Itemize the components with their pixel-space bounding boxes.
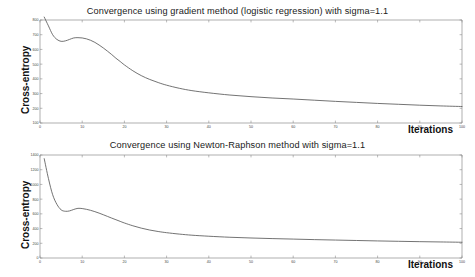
svg-text:200: 200 <box>32 107 38 111</box>
svg-text:40: 40 <box>207 125 211 129</box>
svg-text:800: 800 <box>32 18 38 22</box>
svg-text:300: 300 <box>32 92 38 96</box>
svg-text:500: 500 <box>32 63 38 67</box>
svg-text:20: 20 <box>122 125 126 129</box>
svg-text:50: 50 <box>249 125 253 129</box>
svg-text:10: 10 <box>80 260 84 264</box>
svg-text:50: 50 <box>249 260 253 264</box>
svg-text:0: 0 <box>39 260 41 264</box>
svg-text:80: 80 <box>376 260 380 264</box>
svg-text:80: 80 <box>376 125 380 129</box>
chart-panel-gradient: Convergence using gradient method (logis… <box>0 0 475 140</box>
svg-text:0: 0 <box>36 256 38 260</box>
svg-text:700: 700 <box>32 33 38 37</box>
data-curve-gradient <box>44 17 462 106</box>
svg-text:30: 30 <box>165 125 169 129</box>
svg-text:10: 10 <box>80 125 84 129</box>
x-axis-label-newton: Iterations <box>408 259 453 270</box>
x-axis-label-gradient: Iterations <box>408 124 453 135</box>
y-axis-label-newton: Cross-entropy <box>20 181 31 249</box>
svg-text:100: 100 <box>459 125 465 129</box>
svg-text:100: 100 <box>32 121 38 125</box>
svg-text:800: 800 <box>32 198 38 202</box>
svg-text:1400: 1400 <box>30 153 38 157</box>
plot-area-newton: 0102030405060708090100020040060080010001… <box>0 137 475 277</box>
svg-text:1200: 1200 <box>30 168 38 172</box>
svg-text:600: 600 <box>32 48 38 52</box>
plot-area-gradient: 0102030405060708090100100200300400500600… <box>0 0 475 140</box>
chart-panel-newton: Convergence using Newton-Raphson method … <box>0 137 475 277</box>
svg-text:60: 60 <box>291 260 295 264</box>
svg-text:200: 200 <box>32 242 38 246</box>
svg-text:30: 30 <box>165 260 169 264</box>
svg-text:400: 400 <box>32 227 38 231</box>
svg-text:1000: 1000 <box>30 183 38 187</box>
svg-text:0: 0 <box>39 125 41 129</box>
data-curve-newton <box>44 159 462 243</box>
svg-text:600: 600 <box>32 212 38 216</box>
svg-text:400: 400 <box>32 77 38 81</box>
svg-text:70: 70 <box>333 260 337 264</box>
svg-text:100: 100 <box>459 260 465 264</box>
y-axis-label-gradient: Cross-entropy <box>20 46 31 114</box>
figure-canvas: Convergence using gradient method (logis… <box>0 0 475 277</box>
svg-text:20: 20 <box>122 260 126 264</box>
svg-text:70: 70 <box>333 125 337 129</box>
svg-text:40: 40 <box>207 260 211 264</box>
svg-text:60: 60 <box>291 125 295 129</box>
